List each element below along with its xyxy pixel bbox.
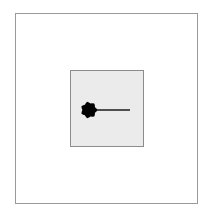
blob-shape [81,102,97,118]
diagram-canvas [0,0,209,213]
